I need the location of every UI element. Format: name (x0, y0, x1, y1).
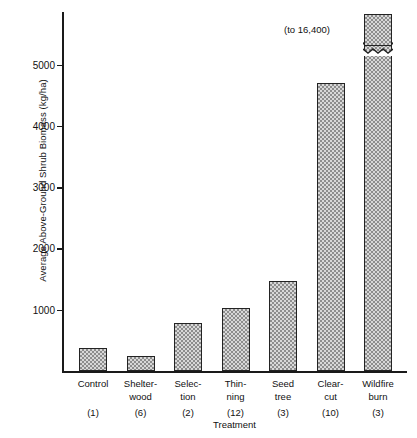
bar-seedtree (269, 281, 297, 371)
bar-thinning (222, 308, 250, 371)
category-label-line1: Seed (259, 378, 307, 391)
category-sample-count: (12) (212, 407, 260, 420)
bar-chart-figure: Average Above-Ground Shrub Biomass (kg/h… (0, 0, 417, 438)
tick-mark-icon (57, 248, 64, 250)
tick-mark-icon (57, 65, 64, 67)
category-label-seedtree: Seedtree(3) (259, 378, 307, 420)
tick-mark-icon (57, 310, 64, 312)
y-tick-label: 4000 (33, 120, 55, 131)
x-axis-line (62, 371, 407, 373)
bar-control (79, 348, 107, 371)
category-label-selection: Selec-tion(2) (164, 378, 212, 420)
category-label-control: Control(1) (69, 378, 117, 419)
bar-clearcut (317, 83, 345, 371)
category-label-line1: Selec- (164, 378, 212, 391)
category-label-wildfireburn: Wildfireburn(3) (354, 378, 402, 420)
category-label-line2: ning (212, 391, 260, 404)
category-sample-count: (1) (69, 407, 117, 420)
category-sample-count: (2) (164, 407, 212, 420)
tick-mark-icon (57, 187, 64, 189)
category-label-line2: cut (307, 391, 355, 404)
category-label-line2: tion (164, 391, 212, 404)
category-label-line2: burn (354, 391, 402, 404)
y-tick-label: 3000 (33, 182, 55, 193)
category-sample-count: (3) (354, 407, 402, 420)
category-label-line1: Clear- (307, 378, 355, 391)
category-sample-count: (10) (307, 407, 355, 420)
y-axis-line (62, 12, 64, 373)
category-label-line1: Thin- (212, 378, 260, 391)
category-label-line2: tree (259, 391, 307, 404)
tick-mark-icon (57, 126, 64, 128)
bar-wildfireburn-clipped-top (364, 14, 392, 46)
y-axis-title: Average Above-Ground Shrub Biomass (kg/h… (37, 51, 48, 311)
category-label-line1: Shelter- (117, 378, 165, 391)
category-label-line2: wood (117, 391, 165, 404)
bar-wildfireburn (364, 38, 392, 371)
bar-shelterwood (127, 356, 155, 371)
axis-break-annotation: (to 16,400) (284, 24, 330, 35)
category-label-shelterwood: Shelter-wood(6) (117, 378, 165, 420)
plot-area: 50004000300020001000 (to 16,400) Control… (62, 12, 407, 373)
y-tick-label: 1000 (33, 304, 55, 315)
category-label-thinning: Thin-ning(12) (212, 378, 260, 420)
y-tick-label: 5000 (33, 59, 55, 70)
x-axis-title: Treatment (62, 419, 407, 430)
category-label-line1: Wildfire (354, 378, 402, 391)
bar-selection (174, 323, 202, 371)
category-sample-count: (6) (117, 407, 165, 420)
category-label-clearcut: Clear-cut(10) (307, 378, 355, 420)
category-sample-count: (3) (259, 407, 307, 420)
category-label-line1: Control (69, 378, 117, 391)
y-tick-label: 2000 (33, 243, 55, 254)
